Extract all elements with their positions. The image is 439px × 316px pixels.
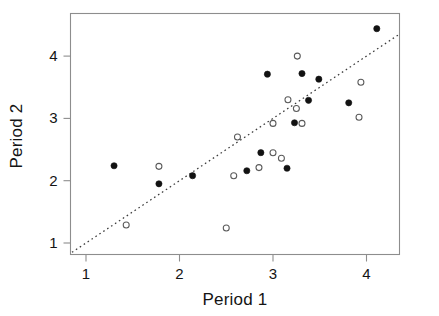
data-point-open-10: [293, 105, 299, 111]
data-point-filled-8: [299, 70, 305, 76]
data-point-open-12: [299, 120, 305, 126]
y-tick-label-1: 1: [49, 234, 57, 251]
data-point-open-4: [234, 134, 240, 140]
data-point-open-3: [231, 173, 237, 179]
y-axis-title: Period 2: [7, 104, 26, 169]
data-series-filled: [111, 26, 380, 187]
scatter-plot-figure: 1234 1234 Period 1 Period 2: [0, 0, 439, 316]
identity-line-segment: [72, 34, 400, 253]
plot-frame: [71, 14, 400, 255]
data-point-open-2: [223, 225, 229, 231]
data-point-open-9: [285, 97, 291, 103]
data-point-filled-12: [374, 26, 380, 32]
x-tick-label-2: 2: [175, 265, 183, 282]
data-point-open-8: [278, 155, 284, 161]
data-point-open-0: [123, 222, 129, 228]
x-axis-title: Period 1: [203, 290, 268, 309]
x-axis-tick-labels: 1234: [82, 265, 371, 282]
data-series-open: [123, 53, 364, 231]
x-tick-label-1: 1: [82, 265, 90, 282]
data-point-filled-3: [244, 168, 250, 174]
x-axis-ticks: [86, 255, 367, 262]
data-point-open-13: [356, 114, 362, 120]
data-point-filled-7: [291, 120, 297, 126]
identity-line: [72, 34, 400, 253]
y-axis-ticks: [64, 56, 71, 243]
data-point-filled-1: [156, 181, 162, 187]
data-point-filled-11: [346, 100, 352, 106]
y-tick-label-2: 2: [49, 172, 57, 189]
data-point-filled-6: [284, 165, 290, 171]
plot-canvas: 1234 1234 Period 1 Period 2: [0, 0, 439, 316]
data-point-filled-10: [316, 76, 322, 82]
data-point-filled-5: [264, 71, 270, 77]
x-tick-label-4: 4: [362, 265, 370, 282]
data-point-open-1: [156, 163, 162, 169]
data-point-filled-4: [258, 150, 264, 156]
data-point-open-6: [270, 150, 276, 156]
data-point-open-7: [270, 120, 276, 126]
x-tick-label-3: 3: [269, 265, 277, 282]
data-point-filled-2: [189, 173, 195, 179]
y-tick-label-3: 3: [49, 109, 57, 126]
y-tick-label-4: 4: [49, 47, 57, 64]
data-point-open-11: [294, 53, 300, 59]
data-point-open-14: [358, 79, 364, 85]
data-point-filled-9: [305, 97, 311, 103]
data-point-filled-0: [111, 163, 117, 169]
data-point-open-5: [256, 165, 262, 171]
y-axis-tick-labels: 1234: [49, 47, 57, 251]
